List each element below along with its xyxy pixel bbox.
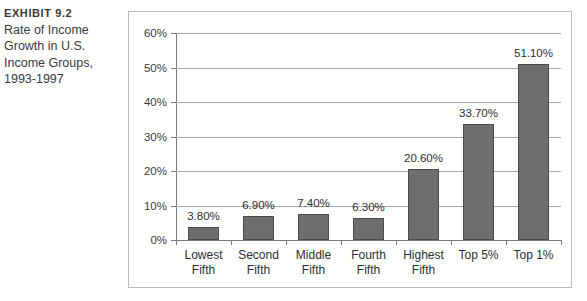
x-axis-label-line: Fifth bbox=[238, 263, 279, 278]
y-axis-tick-label: 10% bbox=[144, 200, 167, 212]
bar-chart-plot-area: 0%10%20%30%40%50%60% 3.80%6.90%7.40%6.30… bbox=[176, 33, 561, 240]
y-axis-tick-label: 20% bbox=[144, 165, 167, 177]
x-axis-tick bbox=[341, 240, 342, 245]
y-axis-tick bbox=[171, 137, 176, 138]
bar-value-label: 7.40% bbox=[297, 197, 330, 209]
bar bbox=[188, 227, 219, 240]
bar bbox=[518, 64, 549, 240]
y-axis-tick-label: 0% bbox=[150, 234, 167, 246]
bar-value-label: 20.60% bbox=[404, 152, 443, 164]
x-axis-category-label: FourthFifth bbox=[351, 248, 386, 277]
x-axis-tick bbox=[451, 240, 452, 245]
exhibit-number-label: Exhibit 9.2 bbox=[4, 7, 120, 19]
x-axis-baseline bbox=[176, 240, 561, 241]
bar bbox=[463, 124, 494, 240]
caption-line: Growth in U.S. bbox=[4, 38, 120, 54]
x-axis-category-label: Top 5% bbox=[458, 248, 498, 263]
bar-value-label: 6.90% bbox=[242, 199, 275, 211]
bar-value-label: 3.80% bbox=[187, 210, 220, 222]
y-axis-tick bbox=[171, 206, 176, 207]
x-axis-label-line: Fifth bbox=[296, 263, 331, 278]
x-axis-tick bbox=[561, 240, 562, 245]
bar-value-label: 51.10% bbox=[514, 47, 553, 59]
x-axis-label-line: Second bbox=[238, 248, 279, 263]
caption-line: 1993-1997 bbox=[4, 71, 120, 87]
x-axis-tick bbox=[286, 240, 287, 245]
x-axis-tick bbox=[231, 240, 232, 245]
y-axis-tick-label: 40% bbox=[144, 96, 167, 108]
x-axis-label-line: Fifth bbox=[351, 263, 386, 278]
x-axis-category-label: Top 1% bbox=[513, 248, 553, 263]
x-axis-category-label: MiddleFifth bbox=[296, 248, 331, 277]
y-axis-tick-label: 60% bbox=[144, 27, 167, 39]
gridline bbox=[176, 171, 561, 172]
y-axis-tick bbox=[171, 171, 176, 172]
bar bbox=[353, 218, 384, 240]
bar bbox=[243, 216, 274, 240]
caption-line: Income Groups, bbox=[4, 55, 120, 71]
x-axis-category-label: LowestFifth bbox=[184, 248, 222, 277]
x-axis-label-line: Lowest bbox=[184, 248, 222, 263]
x-axis-tick bbox=[176, 240, 177, 245]
y-axis-tick-label: 30% bbox=[144, 131, 167, 143]
y-axis-tick bbox=[171, 102, 176, 103]
x-axis-category-label: HighestFifth bbox=[403, 248, 444, 277]
x-axis-tick bbox=[396, 240, 397, 245]
x-axis-category-label: SecondFifth bbox=[238, 248, 279, 277]
bar-value-label: 33.70% bbox=[459, 107, 498, 119]
bar bbox=[408, 169, 439, 240]
exhibit-caption: Exhibit 9.2 Rate of Income Growth in U.S… bbox=[4, 7, 120, 88]
y-axis-tick-label: 50% bbox=[144, 62, 167, 74]
gridline bbox=[176, 102, 561, 103]
x-axis-label-line: Middle bbox=[296, 248, 331, 263]
y-axis-tick bbox=[171, 68, 176, 69]
bar-value-label: 6.30% bbox=[352, 201, 385, 213]
x-axis-label-line: Top 5% bbox=[458, 248, 498, 263]
gridline bbox=[176, 68, 561, 69]
gridline bbox=[176, 33, 561, 34]
chart-frame: 0%10%20%30%40%50%60% 3.80%6.90%7.40%6.30… bbox=[128, 11, 572, 288]
x-axis-label-line: Fifth bbox=[184, 263, 222, 278]
gridline bbox=[176, 137, 561, 138]
x-axis-label-line: Fourth bbox=[351, 248, 386, 263]
caption-line: Rate of Income bbox=[4, 22, 120, 38]
x-axis-label-line: Highest bbox=[403, 248, 444, 263]
x-axis-label-line: Fifth bbox=[403, 263, 444, 278]
y-axis-tick bbox=[171, 33, 176, 34]
x-axis-label-line: Top 1% bbox=[513, 248, 553, 263]
bar bbox=[298, 214, 329, 240]
x-axis-tick bbox=[506, 240, 507, 245]
